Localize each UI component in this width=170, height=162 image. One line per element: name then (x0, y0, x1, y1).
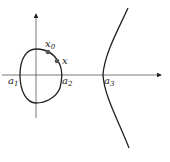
label-a3: a3 (104, 75, 115, 88)
point-x (55, 59, 60, 64)
label-x0: x0 (45, 38, 56, 51)
label-x: x (62, 55, 68, 66)
label-a2: a2 (62, 75, 73, 88)
elliptic-curve-diagram: x0 x a1 a2 a3 (0, 0, 170, 162)
label-a1: a1 (8, 75, 18, 88)
oval-component (20, 49, 62, 103)
point-x0 (46, 50, 51, 55)
